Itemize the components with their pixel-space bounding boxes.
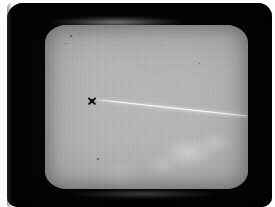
dust-speck xyxy=(78,33,79,34)
cross-marker-icon xyxy=(86,95,97,106)
cross-marker-stroke-b xyxy=(87,97,95,105)
streak-trail-glow xyxy=(93,98,248,118)
crt-phosphor-screen xyxy=(45,25,248,189)
cross-marker-hub xyxy=(90,99,94,103)
screenshot-root xyxy=(0,0,275,207)
dust-speck xyxy=(199,63,200,64)
streak-trail-core xyxy=(95,99,247,117)
streak-trail xyxy=(45,25,248,189)
screen-vignette xyxy=(45,25,248,189)
crt-monitor-bezel xyxy=(7,3,272,207)
glass-reflection-bottom-icon xyxy=(71,191,216,198)
phosphor-blotches xyxy=(45,25,248,189)
cross-marker-stroke-a xyxy=(87,97,95,105)
dust-speck xyxy=(97,158,99,160)
dust-speck xyxy=(65,43,66,44)
screen-grain-texture xyxy=(45,25,248,165)
dust-speck xyxy=(70,35,72,37)
screen-raster-lines xyxy=(45,25,248,189)
